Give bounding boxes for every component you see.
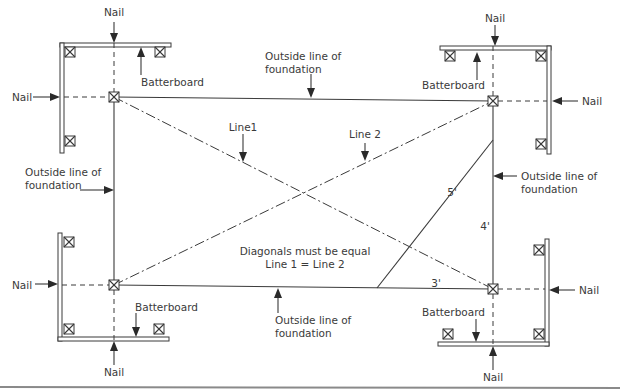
label-nail-bottom-left: Nail — [104, 366, 124, 378]
label-diagonals-note-1: Diagonals must be equal — [240, 245, 371, 257]
arrow-left-icon — [493, 172, 517, 180]
corner-stake-icon — [488, 96, 498, 106]
arrow-up-icon — [489, 346, 497, 370]
stake-icon — [536, 139, 546, 149]
label-outside-line-left-1: Outside line of — [25, 166, 102, 178]
label-nail-left-top: Nail — [12, 91, 32, 103]
arrow-down-icon — [361, 143, 369, 161]
label-outside-line-top-1: Outside line of — [265, 50, 342, 62]
label-nail-right-bottom: Nail — [579, 284, 599, 296]
arrow-up-icon — [473, 52, 481, 80]
batterboard-tr-vertical — [547, 46, 551, 154]
batterboard-tl-vertical — [60, 43, 64, 153]
stake-icon — [534, 329, 544, 339]
label-outside-line-right-1: Outside line of — [521, 170, 598, 182]
arrow-down-icon — [472, 319, 480, 342]
bottom-divider — [0, 387, 620, 388]
batterboard-br-vertical — [545, 239, 549, 346]
label-outside-line-bottom-1: Outside line of — [275, 314, 352, 326]
arrow-left-icon — [549, 286, 575, 294]
label-batterboard-top-right: Batterboard — [422, 79, 485, 91]
arrow-left-icon — [552, 97, 578, 105]
arrow-up-icon — [110, 341, 118, 365]
arrow-down-icon — [307, 74, 315, 98]
label-nail-right-top: Nail — [582, 95, 602, 107]
label-batterboard-bottom-left: Batterboard — [135, 301, 198, 313]
hypotenuse-5ft — [377, 140, 493, 288]
stake-icon — [536, 51, 546, 61]
arrow-right-icon — [35, 280, 58, 288]
label-outside-line-left-2: foundation — [25, 179, 82, 191]
stake-icon — [154, 324, 164, 334]
arrow-up-icon — [137, 47, 145, 75]
label-dim-3ft: 3' — [431, 277, 441, 289]
arrow-down-icon — [132, 313, 140, 337]
stake-icon — [445, 51, 455, 61]
stake-icon — [65, 47, 75, 57]
label-diagonals-note-2: Line 1 = Line 2 — [265, 258, 344, 270]
label-dim-4ft: 4' — [480, 220, 490, 232]
stake-icon — [443, 329, 453, 339]
corner-stake-icon — [109, 92, 119, 102]
arrow-down-icon — [110, 22, 118, 43]
stake-icon — [534, 245, 544, 255]
foundation-top-line — [114, 97, 493, 101]
label-outside-line-right-2: foundation — [521, 183, 578, 195]
arrow-right-icon — [33, 93, 60, 101]
label-nail-bottom-right: Nail — [483, 371, 503, 383]
label-line2: Line 2 — [349, 128, 381, 140]
corner-stake-icon — [488, 284, 498, 294]
stake-icon — [64, 237, 74, 247]
batterboard-bl-vertical — [58, 233, 62, 341]
label-nail-top-right: Nail — [485, 12, 505, 24]
arrow-down-icon — [239, 134, 247, 162]
stake-icon — [65, 136, 75, 146]
arrow-down-icon — [491, 25, 499, 46]
arrow-right-icon — [80, 186, 114, 194]
batterboard-tl-horizontal — [60, 43, 171, 47]
label-nail-top-left: Nail — [104, 6, 124, 18]
batterboard-tr-horizontal — [440, 46, 551, 50]
label-outside-line-top-2: foundation — [265, 63, 322, 75]
corner-stake-icon — [109, 280, 119, 290]
label-batterboard-top-left: Batterboard — [141, 76, 204, 88]
label-outside-line-bottom-2: foundation — [275, 327, 332, 339]
label-nail-left-bottom: Nail — [12, 279, 32, 291]
label-batterboard-bottom-right: Batterboard — [422, 306, 485, 318]
stake-icon — [64, 324, 74, 334]
foundation-layout-diagram: Nail Batterboard Nail Outside line of fo… — [0, 0, 620, 390]
stake-icon — [155, 47, 165, 57]
label-dim-5ft: 5' — [447, 186, 457, 198]
label-line1: Line1 — [229, 121, 258, 133]
arrow-up-icon — [274, 288, 282, 313]
